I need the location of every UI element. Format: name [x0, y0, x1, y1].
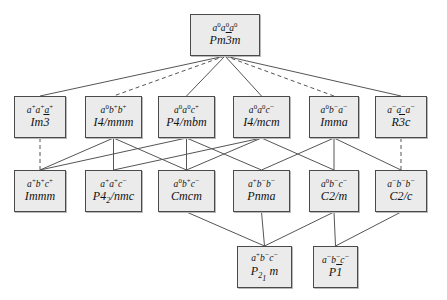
node-i4mmm[interactable]: a0b+b+I4/mmm	[85, 96, 142, 138]
node-immm[interactable]: a+b+c+Immm	[14, 170, 66, 212]
node-c2c[interactable]: a−b−b−C2/c	[375, 170, 427, 212]
node-tilt-label: a+a+a+	[27, 105, 53, 115]
node-p21m[interactable]: a+b−c−P21 m	[237, 246, 292, 288]
node-spacegroup-label: P1	[329, 266, 343, 279]
node-tilt-label: a0a0a0	[212, 23, 237, 33]
node-spacegroup-label: I4/mmm	[94, 116, 134, 129]
node-tilt-label: a+a+c−	[100, 179, 126, 189]
node-r3c[interactable]: a−a−a−R3c	[375, 96, 427, 138]
node-i4mcm[interactable]: a0a0c−I4/mcm	[233, 96, 290, 138]
node-p1bar[interactable]: a−b−c−P1	[313, 246, 358, 288]
edge-p4mbm-to-immm	[40, 138, 187, 170]
node-tilt-label: a0a0c+	[174, 105, 199, 115]
edge-imma-to-pnma	[262, 138, 335, 170]
edge-i4mcm-to-c2m	[262, 138, 335, 170]
node-spacegroup-label: Pnma	[247, 190, 275, 203]
node-tilt-label: a−b−b−	[387, 179, 415, 189]
edge-c2m-to-p21m	[265, 212, 335, 246]
node-spacegroup-label: C2/c	[389, 190, 412, 203]
edge-imma-to-c2c	[334, 138, 401, 170]
node-spacegroup-label: P4/mbm	[166, 116, 207, 129]
edge-p4mbm-to-pnma	[187, 138, 262, 170]
node-tilt-label: a0b+b+	[101, 105, 127, 115]
edge-i4mcm-to-p42nmc	[114, 138, 262, 170]
node-spacegroup-label: Cmcm	[171, 190, 202, 203]
node-spacegroup-label: R3c	[392, 116, 411, 129]
node-imma[interactable]: a0b−a−Imma	[309, 96, 359, 138]
node-tilt-label: a0b−a−	[321, 105, 348, 115]
node-spacegroup-label: C2/m	[321, 190, 347, 203]
edge-pm3m-to-im3	[40, 56, 225, 96]
edge-pnma-to-p21m	[262, 212, 265, 246]
node-c2m[interactable]: a0b−c−C2/m	[309, 170, 359, 212]
edge-pm3m-to-r3c	[225, 56, 401, 96]
node-p42nmc[interactable]: a+a+c−P42/nmc	[85, 170, 142, 212]
node-cmcm[interactable]: a0b+c−Cmcm	[158, 170, 215, 212]
edge-pm3m-to-i4mmm	[114, 56, 226, 96]
node-tilt-label: a+b+c+	[27, 179, 53, 189]
node-spacegroup-label: Immm	[25, 190, 55, 203]
node-spacegroup-label: Pm3m	[209, 34, 240, 47]
node-tilt-label: a−b−c−	[322, 255, 349, 265]
node-tilt-label: a0b+c−	[174, 179, 200, 189]
node-tilt-label: a+b−c−	[251, 253, 278, 263]
node-p4mbm[interactable]: a0a0c+P4/mbm	[158, 96, 215, 138]
node-spacegroup-label: I4/mcm	[243, 116, 280, 129]
edge-pm3m-to-p4mbm	[187, 56, 226, 96]
node-tilt-label: a+b−b−	[248, 179, 275, 189]
node-spacegroup-label: Imma	[320, 116, 348, 129]
node-spacegroup-label: P21 m	[251, 265, 279, 281]
edge-i4mmm-to-cmcm	[114, 138, 187, 170]
edge-pm3m-to-i4mcm	[225, 56, 262, 96]
node-spacegroup-label: P42/nmc	[93, 190, 134, 203]
node-spacegroup-label: Im3	[31, 116, 50, 129]
node-tilt-label: a−a−a−	[387, 105, 415, 115]
node-pnma[interactable]: a+b−b−Pnma	[233, 170, 290, 212]
node-tilt-label: a0a0c−	[249, 105, 274, 115]
edge-c2c-to-p1bar	[336, 212, 402, 246]
edge-i4mcm-to-cmcm	[187, 138, 262, 170]
node-tilt-label: a0b−c−	[321, 179, 347, 189]
edge-i4mmm-to-immm	[40, 138, 114, 170]
edge-c2m-to-p1bar	[334, 212, 336, 246]
edge-pm3m-to-imma	[225, 56, 334, 96]
edge-cmcm-to-p21m	[187, 212, 265, 246]
node-pm3m[interactable]: a0a0a0Pm3m	[190, 14, 260, 56]
node-im3[interactable]: a+a+a+Im3	[14, 96, 66, 138]
tilt-system-hierarchy-diagram: a0a0a0Pm3ma+a+a+Im3a0b+b+I4/mmma0a0c+P4/…	[0, 0, 447, 300]
